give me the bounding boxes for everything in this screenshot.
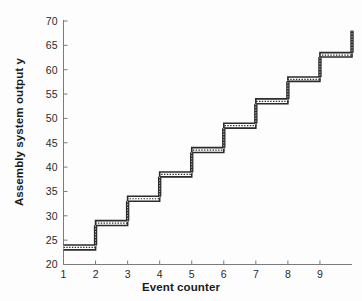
data-series-step-line: [64, 29, 353, 250]
x-tick-label: 7: [253, 268, 259, 280]
y-tick-label: 40: [46, 161, 58, 173]
step-line-upper: [64, 31, 353, 245]
x-tick-label: 9: [317, 268, 323, 280]
y-axis-ticks: 2025303540455055606570: [46, 15, 68, 270]
y-tick-label: 20: [46, 258, 58, 270]
y-tick-label: 25: [46, 234, 58, 246]
step-line-center-dotted: [64, 31, 353, 248]
step-line-lower: [64, 31, 353, 250]
y-tick-label: 55: [46, 88, 58, 100]
x-tick-label: 3: [125, 268, 131, 280]
plot-area: 2025303540455055606570 123456789: [0, 0, 362, 301]
y-tick-label: 35: [46, 185, 58, 197]
y-tick-label: 30: [46, 210, 58, 222]
x-tick-label: 6: [221, 268, 227, 280]
x-tick-label: 2: [93, 268, 99, 280]
chart-figure: Assembly system output y Event counter 2…: [0, 0, 362, 301]
x-tick-label: 5: [189, 268, 195, 280]
x-axis-ticks: 123456789: [61, 261, 323, 280]
y-tick-label: 45: [46, 137, 58, 149]
x-tick-label: 1: [61, 268, 67, 280]
y-tick-label: 50: [46, 112, 58, 124]
step-band-fill: [64, 31, 353, 250]
x-tick-label: 4: [157, 268, 163, 280]
y-tick-label: 65: [46, 39, 58, 51]
step-chart-svg: 2025303540455055606570 123456789: [0, 0, 362, 301]
y-tick-label: 70: [46, 15, 58, 27]
x-tick-label: 8: [285, 268, 291, 280]
y-tick-label: 60: [46, 64, 58, 76]
